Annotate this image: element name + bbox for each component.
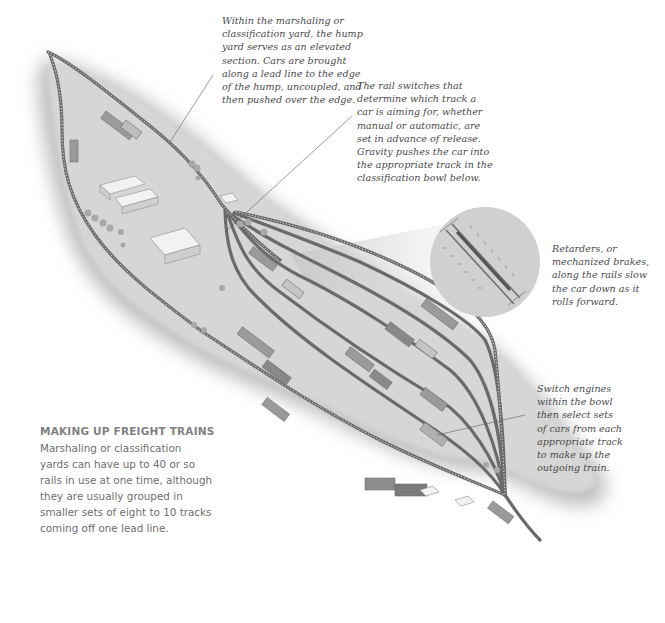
rail-yard-infographic: Within the marshaling or classification … — [0, 0, 665, 623]
sidebar-making-up-freight-trains: MAKING UP FREIGHT TRAINS Marshaling or c… — [40, 425, 240, 536]
callout-retarders: Retarders, or mechanized brakes, along t… — [552, 242, 662, 308]
sidebar-body: Marshaling or classification yards can h… — [40, 440, 240, 536]
retarder-magnifier — [430, 207, 540, 317]
callout-switch-engines: Switch engines within the bowl then sele… — [537, 382, 662, 474]
sidebar-title: MAKING UP FREIGHT TRAINS — [40, 425, 240, 437]
callout-rail-switches: The rail switches that determine which t… — [357, 79, 537, 185]
